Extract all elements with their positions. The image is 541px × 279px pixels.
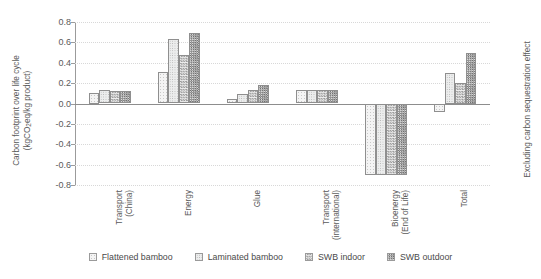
right-axis-note: Excluding carbon sequestration effect (523, 0, 532, 220)
legend-label: Laminated bamboo (208, 252, 283, 262)
legend-label: Flattened bamboo (102, 252, 173, 262)
y-axis-tick-label: 0.2 (31, 78, 71, 88)
bar (158, 72, 169, 104)
bar-group (352, 22, 421, 185)
x-axis-category-label: Bioenergy(End of Life) (391, 190, 411, 279)
bar (365, 104, 376, 175)
bar-group (75, 22, 144, 185)
bar (189, 33, 200, 103)
x-axis-category-label-line: Transport (115, 190, 125, 279)
y-axis-tick-label: 0.4 (31, 58, 71, 68)
x-axis-category-label: Total (460, 190, 470, 279)
x-axis-category-label: Glue (253, 190, 263, 279)
y-axis-tick-label: -0.4 (31, 139, 71, 149)
bar (386, 104, 397, 175)
bar-group (283, 22, 352, 185)
x-axis-category-label-line: (China) (125, 190, 135, 279)
legend-swatch-icon (89, 253, 97, 261)
bar-group (144, 22, 213, 185)
x-axis-category-label-line: Transport (322, 190, 332, 279)
y-axis-tick-label: -0.6 (31, 160, 71, 170)
x-axis-category-label: Transport(international) (322, 190, 342, 279)
bar (168, 39, 179, 103)
x-axis-category-label-line: Total (460, 190, 470, 279)
bar (89, 93, 100, 103)
y-axis-tick-label: -0.8 (31, 180, 71, 190)
bar (227, 99, 238, 103)
bar (445, 73, 456, 104)
x-axis-category-label-line: (End of Life) (401, 190, 411, 279)
bar (296, 90, 307, 103)
bar (258, 85, 269, 103)
x-axis-category-label: Energy (184, 190, 194, 279)
x-axis-category-label: Transport(China) (115, 190, 135, 279)
bar (179, 55, 190, 104)
y-axis-tick-label: -0.2 (31, 119, 71, 129)
bar (317, 90, 328, 103)
bar (120, 91, 131, 103)
bar (397, 104, 408, 175)
y-axis-tick-mark (71, 185, 75, 186)
y-axis-tick-label: 0.0 (31, 99, 71, 109)
bar-group (213, 22, 282, 185)
bar (328, 90, 339, 103)
bar (248, 90, 259, 103)
plot-area: 0.80.60.40.20.0-0.2-0.4-0.6-0.8 (75, 22, 490, 185)
bar-group (421, 22, 490, 185)
y-axis-tick-label: 0.6 (31, 37, 71, 47)
x-axis-category-label-line: Bioenergy (391, 190, 401, 279)
y-axis-tick-label: 0.8 (31, 17, 71, 27)
bar (307, 90, 318, 103)
x-axis-category-label-line: (international) (332, 190, 342, 279)
legend-swatch-icon (195, 253, 203, 261)
x-axis-category-label-line: Glue (253, 190, 263, 279)
bar (99, 90, 110, 103)
bar (110, 91, 121, 103)
x-axis-category-label-line: Energy (184, 190, 194, 279)
bar (466, 53, 477, 104)
chart-figure: Carbon footprint over life cycle (kgCO2e… (0, 0, 541, 279)
bar (455, 83, 466, 103)
legend-swatch-icon (305, 253, 313, 261)
y-axis-label-line1: Carbon footprint over life cycle (12, 55, 21, 166)
bar (434, 104, 445, 112)
y-axis-label: Carbon footprint over life cycle (kgCO2e… (12, 11, 33, 211)
bar (376, 104, 387, 175)
gridline (75, 185, 490, 186)
bar (237, 94, 248, 103)
legend-item[interactable]: Laminated bamboo (195, 252, 283, 262)
